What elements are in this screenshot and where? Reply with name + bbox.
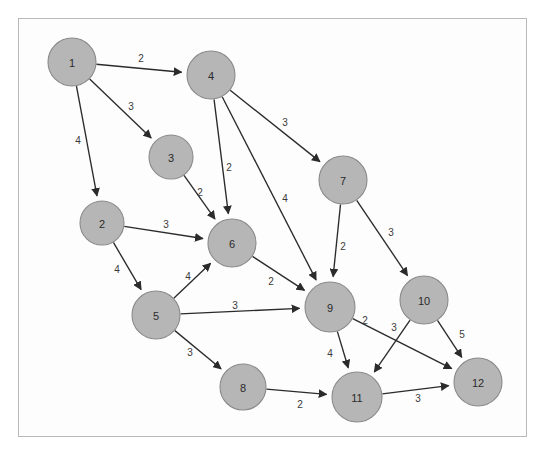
graph-node-11[interactable]: 11 <box>332 372 382 422</box>
edge-weight-1-2: 4 <box>75 135 81 146</box>
graph-canvas: 234234234433223243523 123456789101112 <box>0 0 549 457</box>
graph-node-3[interactable]: 3 <box>149 135 193 179</box>
edge-weight-4-9: 4 <box>282 193 288 204</box>
edge-9-to-11 <box>337 331 348 367</box>
edge-weight-10-12: 5 <box>459 329 465 340</box>
edge-weight-1-3: 3 <box>128 101 134 112</box>
graph-node-12[interactable]: 12 <box>454 358 502 406</box>
node-circle-4[interactable] <box>187 51 235 99</box>
edge-weight-8-11: 2 <box>297 399 303 410</box>
edge-weight-11-12: 3 <box>415 393 421 404</box>
edge-weight-7-10: 3 <box>388 227 394 238</box>
edge-weight-9-11: 4 <box>327 348 333 359</box>
edge-3-to-6 <box>184 175 215 219</box>
node-circle-9[interactable] <box>305 282 355 332</box>
edge-weight-4-7: 3 <box>282 117 288 128</box>
graph-node-9[interactable]: 9 <box>305 282 355 332</box>
node-circle-1[interactable] <box>48 38 96 86</box>
graph-node-1[interactable]: 1 <box>48 38 96 86</box>
node-circle-12[interactable] <box>454 358 502 406</box>
graph-node-2[interactable]: 2 <box>80 201 124 245</box>
node-circle-5[interactable] <box>132 291 180 339</box>
graph-node-6[interactable]: 6 <box>208 219 256 267</box>
edge-5-to-9 <box>180 308 299 313</box>
edge-7-to-9 <box>333 204 340 276</box>
edge-2-to-6 <box>124 226 203 238</box>
edge-weight-5-8: 3 <box>187 347 193 358</box>
edge-8-to-11 <box>266 389 326 394</box>
edge-weight-10-11: 3 <box>391 322 397 333</box>
node-circle-2[interactable] <box>80 201 124 245</box>
edge-4-to-6 <box>214 99 228 213</box>
node-circle-6[interactable] <box>208 219 256 267</box>
edge-weight-6-9: 2 <box>268 276 274 287</box>
node-circle-3[interactable] <box>149 135 193 179</box>
node-circle-11[interactable] <box>332 372 382 422</box>
edge-1-to-4 <box>96 64 181 72</box>
edge-11-to-12 <box>382 386 448 394</box>
node-circle-7[interactable] <box>319 156 367 204</box>
graph-node-7[interactable]: 7 <box>319 156 367 204</box>
edge-5-to-8 <box>175 331 221 369</box>
edge-weight-5-6: 4 <box>185 271 191 282</box>
edges-layer <box>76 64 461 394</box>
edge-weight-2-6: 3 <box>163 219 169 230</box>
edge-weights-layer: 234234234433223243523 <box>75 53 465 410</box>
edge-2-to-5 <box>113 242 141 289</box>
edge-7-to-10 <box>357 200 408 275</box>
edge-weight-7-9: 2 <box>340 241 346 252</box>
edge-weight-2-5: 4 <box>114 264 120 275</box>
node-circle-8[interactable] <box>220 364 266 410</box>
edge-weight-4-6: 2 <box>226 162 232 173</box>
graph-node-8[interactable]: 8 <box>220 364 266 410</box>
edge-5-to-6 <box>174 263 211 298</box>
edge-1-to-2 <box>76 86 96 196</box>
edge-weight-5-9: 3 <box>232 300 238 311</box>
edge-10-to-11 <box>374 320 410 372</box>
edge-6-to-9 <box>253 256 305 290</box>
edge-4-to-7 <box>230 90 320 161</box>
graph-node-5[interactable]: 5 <box>132 291 180 339</box>
edge-10-to-12 <box>437 320 461 357</box>
nodes-layer: 123456789101112 <box>48 38 502 422</box>
graph-node-10[interactable]: 10 <box>400 276 448 324</box>
node-circle-10[interactable] <box>400 276 448 324</box>
edge-1-to-3 <box>90 79 151 138</box>
edge-9-to-12 <box>353 319 452 369</box>
edge-weight-1-4: 2 <box>138 53 144 64</box>
graph-node-4[interactable]: 4 <box>187 51 235 99</box>
